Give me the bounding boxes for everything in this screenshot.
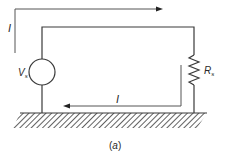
resistor-label: Rs	[204, 65, 214, 77]
circuit-diagram: I I Vs Rs (a)	[0, 0, 225, 157]
inner-current-arrow	[63, 65, 181, 109]
figure-caption: (a)	[109, 140, 121, 151]
arrowhead-left-icon	[63, 104, 70, 109]
outer-current-arrow	[15, 7, 163, 54]
inner-current-label: I	[116, 93, 119, 105]
source-label: Vs	[18, 67, 28, 79]
ground-plane	[13, 113, 207, 128]
outer-current-label: I	[8, 22, 11, 34]
arrowhead-right-icon	[156, 7, 163, 12]
voltage-source-icon	[29, 59, 55, 85]
resistor-icon	[189, 55, 199, 85]
